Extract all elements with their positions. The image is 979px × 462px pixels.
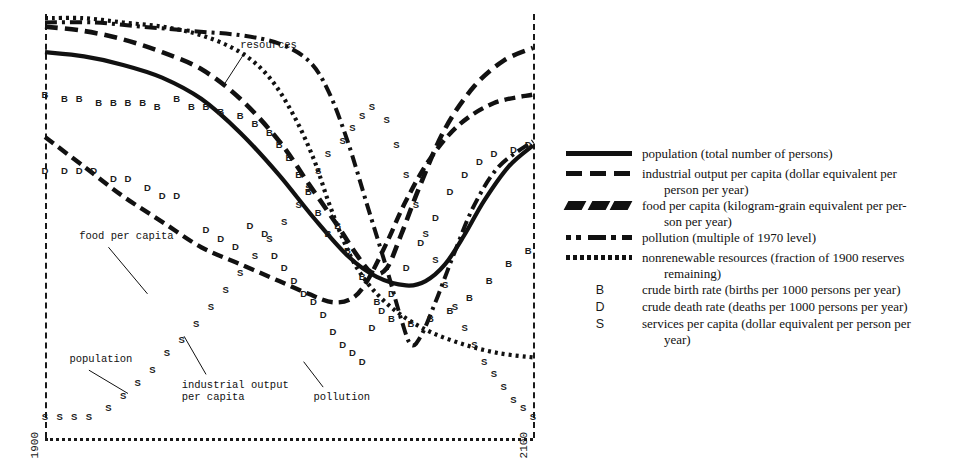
marker-s: S <box>135 378 141 388</box>
marker-b: B <box>125 98 132 108</box>
marker-s: S <box>422 230 428 240</box>
marker-s: S <box>266 234 272 244</box>
legend: population (total number of persons)indu… <box>566 146 974 348</box>
marker-s: S <box>432 255 438 265</box>
annotation-population: population <box>69 353 132 365</box>
marker-d: D <box>159 192 166 202</box>
marker-b: B <box>154 103 161 113</box>
marker-d: D <box>310 298 317 308</box>
dash-dot-swatch <box>566 230 634 249</box>
marker-d: D <box>320 310 327 320</box>
marker-s: S <box>340 136 346 146</box>
legend-label: services per capita (dollar equivalent p… <box>642 316 974 347</box>
marker-d: D <box>525 141 532 151</box>
marker-b: B <box>203 103 210 113</box>
legend-marker-s: S <box>566 316 634 332</box>
marker-b: B <box>76 94 83 104</box>
legend-label-continuation: person per year) <box>642 182 974 198</box>
marker-b: B <box>427 315 434 325</box>
legend-label: crude birth rate (births per 1000 person… <box>642 282 974 298</box>
marker-s: S <box>369 103 375 113</box>
annotation-leader-line <box>108 247 147 294</box>
marker-s: S <box>481 357 487 367</box>
marker-d: D <box>359 357 366 367</box>
marker-d: D <box>290 276 297 286</box>
marker-b: B <box>325 230 332 240</box>
marker-b: B <box>266 128 273 138</box>
marker-b: B <box>251 119 258 129</box>
marker-d: D <box>217 234 224 244</box>
marker-b: B <box>408 319 415 329</box>
plot-area: BBBBBBBBBBBBBBBBBBBBBBBBBBBBBBBBBDDDDDDD… <box>0 0 560 462</box>
marker-s: S <box>413 200 419 210</box>
marker-d: D <box>173 192 180 202</box>
marker-s: S <box>383 115 389 125</box>
marker-s: S <box>491 370 497 380</box>
slant-dash-swatch <box>566 198 634 217</box>
legend-label: food per capita (kilogram-grain equivale… <box>642 198 974 229</box>
marker-s: S <box>462 323 468 333</box>
marker-s: S <box>71 412 77 422</box>
solid-line-swatch <box>566 146 634 165</box>
marker-d: D <box>491 149 498 159</box>
marker-s: S <box>164 348 170 358</box>
legend-label-continuation: remaining) <box>642 266 974 282</box>
marker-s: S <box>501 382 507 392</box>
legend-item-industrial-output: industrial output per capita (dollar equ… <box>566 166 974 197</box>
marker-s: S <box>305 183 311 193</box>
annotation-leader-line <box>304 362 324 387</box>
legend-item-services-per-capita: Sservices per capita (dollar equivalent … <box>566 316 974 347</box>
marker-s: S <box>442 281 448 291</box>
marker-d: D <box>378 306 385 316</box>
marker-d: D <box>247 221 254 231</box>
marker-s: S <box>530 412 536 422</box>
marker-d: D <box>90 166 97 176</box>
marker-s: S <box>359 111 365 121</box>
legend-item-nonrenewable-resources: nonrenewable resources (fraction of 1900… <box>566 250 974 281</box>
marker-b: B <box>334 221 341 231</box>
marker-b: B <box>173 94 180 104</box>
legend-label: crude death rate (deaths per 1000 person… <box>642 299 974 315</box>
marker-d: D <box>461 170 468 180</box>
marker-s: S <box>393 141 399 151</box>
marker-s: S <box>325 149 331 159</box>
marker-b: B <box>276 141 283 151</box>
marker-d: D <box>369 323 376 333</box>
legend-marker-b: B <box>566 282 634 298</box>
marker-d: D <box>110 175 117 185</box>
marker-d: D <box>339 340 346 350</box>
marker-s: S <box>296 200 302 210</box>
annotation-leader-line <box>223 52 245 86</box>
x-axis-end-label: 2100 <box>519 432 530 458</box>
marker-d: D <box>476 158 483 168</box>
curve-population <box>45 52 533 285</box>
marker-s: S <box>520 404 526 414</box>
marker-d: D <box>329 327 336 337</box>
legend-item-food-per-capita: food per capita (kilogram-grain equivale… <box>566 198 974 229</box>
marker-d: D <box>388 289 395 299</box>
marker-b: B <box>217 107 224 117</box>
marker-d: D <box>281 264 288 274</box>
marker-d: D <box>349 348 356 358</box>
marker-b: B <box>315 209 322 219</box>
marker-b: B <box>237 111 244 121</box>
marker-b: B <box>110 98 117 108</box>
legend-label: pollution (multiple of 1970 level) <box>642 230 974 246</box>
dotted-line-swatch <box>566 250 634 269</box>
annotation-resources: resources <box>240 39 297 51</box>
marker-b: B <box>344 247 351 257</box>
annotation-industrial-output-per-capita: industrial outputper capita <box>182 379 289 403</box>
marker-b: B <box>388 315 395 325</box>
marker-d: D <box>271 251 278 261</box>
curve-food-per-capita <box>45 95 533 303</box>
marker-b: B <box>95 98 102 108</box>
marker-s: S <box>120 391 126 401</box>
marker-s: S <box>178 336 184 346</box>
marker-s: S <box>193 319 199 329</box>
marker-b: B <box>486 276 493 286</box>
marker-b: B <box>286 153 293 163</box>
marker-s: S <box>403 170 409 180</box>
marker-b: B <box>61 94 68 104</box>
marker-s: S <box>42 412 48 422</box>
marker-s: S <box>471 340 477 350</box>
